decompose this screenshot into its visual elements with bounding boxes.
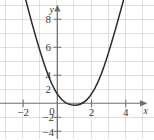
y-tick-label-2: 2 (46, 83, 52, 95)
y-tick-label-8: 8 (46, 13, 52, 25)
x-tick-label-2: 2 (89, 106, 95, 118)
x-axis-label: x (143, 105, 149, 116)
chart-figure: 8 6 4 2 −2 −4 −2 0 2 4 y x (0, 0, 154, 139)
y-tick-label-6: 6 (46, 41, 52, 53)
y-tick-label-neg4: −4 (42, 126, 54, 138)
x-axis-tick-labels: −2 0 2 4 (17, 105, 129, 118)
y-axis-label: y (49, 4, 55, 15)
grid-lines-vertical (6, 0, 143, 139)
x-tick-label-0: 0 (49, 105, 55, 117)
y-axis (54, 5, 60, 140)
x-tick-label-neg2: −2 (17, 106, 29, 118)
x-tick-label-4: 4 (123, 106, 129, 118)
parabola-plot: 8 6 4 2 −2 −4 −2 0 2 4 y x (0, 0, 154, 139)
